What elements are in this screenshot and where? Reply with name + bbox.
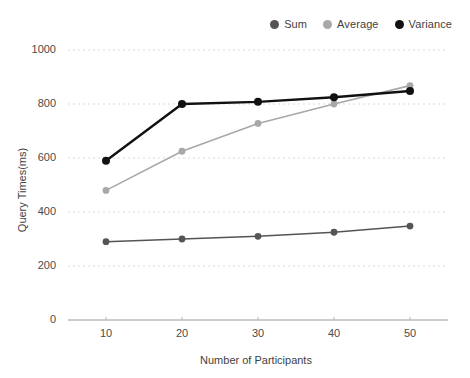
data-point-average-10[interactable] [103,187,110,194]
y-tick-label-800: 800 [38,97,56,109]
chart-screenshot: Sum Average Variance 02004006008001000 1… [0,0,470,378]
data-point-sum-50[interactable] [407,223,414,230]
x-tick-label-20: 20 [176,327,188,339]
data-point-sum-10[interactable] [103,238,110,245]
y-axis-tick-labels: 02004006008001000 [32,43,56,325]
x-tick-label-30: 30 [252,327,264,339]
y-tick-label-200: 200 [38,259,56,271]
x-tick-label-40: 40 [328,327,340,339]
y-tick-label-400: 400 [38,205,56,217]
data-point-variance-50[interactable] [406,87,414,95]
data-point-sum-20[interactable] [179,236,186,243]
data-point-variance-20[interactable] [178,100,186,108]
data-point-variance-10[interactable] [102,157,110,165]
plot-area: 02004006008001000 1020304050 Number of P… [0,0,470,378]
x-axis-tick-labels: 1020304050 [100,327,416,339]
data-point-variance-30[interactable] [254,98,262,106]
x-tick-label-50: 50 [404,327,416,339]
data-point-average-30[interactable] [255,120,262,127]
data-point-sum-40[interactable] [331,229,338,236]
y-tick-label-0: 0 [50,313,56,325]
y-axis-title: Query Times(ms) [16,148,28,232]
series-sum [103,223,414,245]
data-point-sum-30[interactable] [255,233,262,240]
data-point-variance-40[interactable] [330,93,338,101]
data-point-average-20[interactable] [179,148,186,155]
chart-canvas: 02004006008001000 1020304050 Number of P… [0,0,470,378]
x-axis-title: Number of Participants [200,354,312,366]
y-tick-label-1000: 1000 [32,43,56,55]
x-tick-label-10: 10 [100,327,112,339]
y-tick-label-600: 600 [38,151,56,163]
data-series-group [102,82,414,245]
data-point-average-40[interactable] [331,101,338,108]
